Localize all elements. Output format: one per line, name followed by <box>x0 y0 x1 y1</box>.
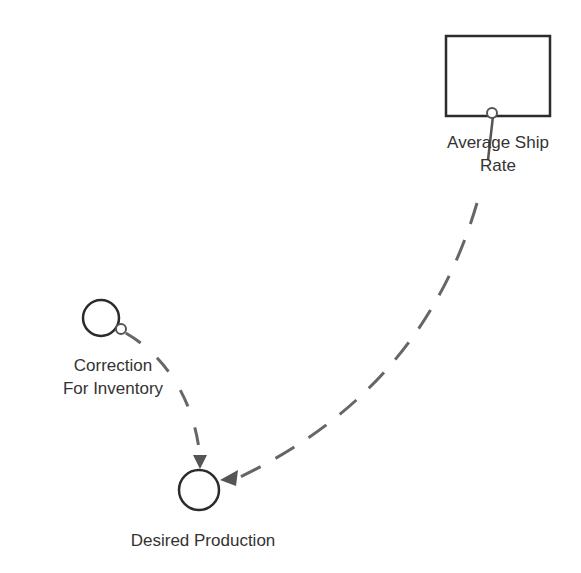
label-line: Desired Production <box>131 529 276 552</box>
label-average-ship-rate: Average Ship Rate <box>447 131 549 177</box>
label-line: For Inventory <box>63 377 163 400</box>
connector-handle-icon[interactable] <box>487 108 497 118</box>
label-desired-production: Desired Production <box>131 529 276 552</box>
label-line: Rate <box>447 154 549 177</box>
link-correction-to-desired-production[interactable] <box>124 332 207 469</box>
converter-desired-production[interactable] <box>179 470 219 510</box>
diagram-canvas <box>0 0 581 573</box>
label-line: Correction <box>63 354 163 377</box>
label-correction-for-inventory: Correction For Inventory <box>63 354 163 400</box>
arrowhead-icon <box>193 455 207 469</box>
converter-correction-for-inventory[interactable] <box>83 300 126 336</box>
connector-handle-icon[interactable] <box>116 324 126 334</box>
stock-average-ship-rate[interactable] <box>446 36 550 118</box>
label-line: Average Ship <box>447 131 549 154</box>
arrowhead-icon <box>220 470 238 486</box>
